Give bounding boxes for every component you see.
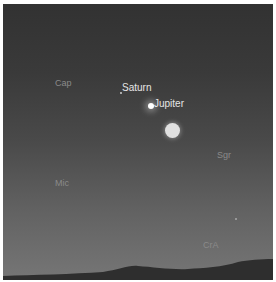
horizon-silhouette (3, 256, 273, 280)
constellation-label-cra: CrA (203, 240, 219, 250)
constellation-label-sgr: Sgr (217, 150, 231, 160)
planet-label-saturn: Saturn (122, 82, 151, 93)
moon-icon (165, 123, 180, 138)
constellation-label-mic: Mic (55, 178, 69, 188)
planet-label-jupiter: Jupiter (154, 98, 184, 109)
jupiter-icon (148, 103, 154, 109)
sky-view: Cap Saturn Jupiter Sgr Mic CrA (3, 4, 273, 280)
constellation-label-cap: Cap (55, 78, 72, 88)
star-icon (235, 218, 237, 220)
saturn-icon (120, 92, 122, 94)
